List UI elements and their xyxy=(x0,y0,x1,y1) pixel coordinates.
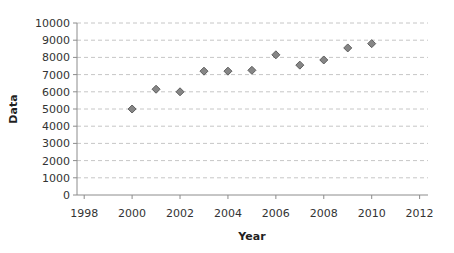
tick-marks-and-labels: 0100020003000400050006000700080009000100… xyxy=(35,17,434,220)
y-tick-label: 10000 xyxy=(35,17,70,30)
data-point xyxy=(128,105,136,113)
y-tick-label: 4000 xyxy=(42,120,70,133)
data-point xyxy=(320,56,328,64)
y-tick-label: 0 xyxy=(63,189,70,202)
scatter-plot-canvas: 0100020003000400050006000700080009000100… xyxy=(0,0,454,253)
data-point xyxy=(248,66,256,74)
data-point xyxy=(152,85,160,93)
y-tick-label: 9000 xyxy=(42,34,70,47)
y-tick-label: 3000 xyxy=(42,137,70,150)
x-tick-label: 2010 xyxy=(358,207,386,220)
y-tick-label: 5000 xyxy=(42,103,70,116)
x-axis-title: Year xyxy=(237,230,266,243)
x-tick-label: 2012 xyxy=(406,207,434,220)
y-tick-label: 8000 xyxy=(42,51,70,64)
y-tick-label: 2000 xyxy=(42,155,70,168)
gridlines xyxy=(77,23,428,178)
data-points xyxy=(128,40,376,113)
data-point xyxy=(296,61,304,69)
x-tick-label: 2000 xyxy=(118,207,146,220)
y-tick-label: 7000 xyxy=(42,69,70,82)
x-tick-label: 2004 xyxy=(214,207,242,220)
x-tick-label: 1998 xyxy=(70,207,98,220)
y-tick-label: 6000 xyxy=(42,86,70,99)
data-point xyxy=(368,40,376,48)
data-point xyxy=(176,88,184,96)
data-point xyxy=(344,44,352,52)
data-point xyxy=(224,67,232,75)
x-tick-label: 2008 xyxy=(310,207,338,220)
scatter-chart-figure: 0100020003000400050006000700080009000100… xyxy=(0,0,454,253)
data-point xyxy=(200,67,208,75)
x-tick-label: 2006 xyxy=(262,207,290,220)
y-tick-label: 1000 xyxy=(42,172,70,185)
y-axis-title: Data xyxy=(7,94,20,123)
x-tick-label: 2002 xyxy=(166,207,194,220)
